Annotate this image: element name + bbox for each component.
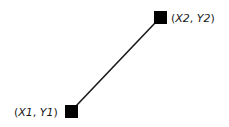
line-diagram: (X2, Y2) (X1, Y1) xyxy=(0,0,229,127)
endpoint-marker-1 xyxy=(65,105,78,118)
point-2-label: (X2, Y2) xyxy=(171,12,215,25)
connecting-line xyxy=(76,23,155,106)
endpoint-marker-2 xyxy=(154,11,167,24)
point-1-label: (X1, Y1) xyxy=(14,106,58,119)
